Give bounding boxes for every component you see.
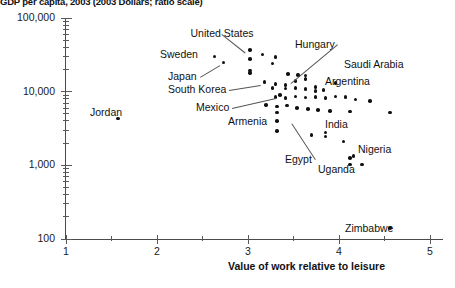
y-minor-tick — [63, 25, 69, 26]
label-leader-line — [229, 85, 261, 91]
y-axis-line — [65, 18, 66, 239]
data-point — [264, 103, 268, 107]
y-tick-label: 100,000 — [0, 11, 55, 23]
y-major-tick — [61, 18, 72, 19]
data-point — [275, 111, 279, 115]
point-label-armenia: Armenia — [228, 115, 267, 127]
point-label-mexico: Mexico — [196, 101, 229, 113]
y-minor-tick — [63, 194, 69, 195]
point-label-argentina: Argentina — [325, 75, 370, 87]
point-label-uganda: Uganda — [318, 163, 355, 175]
data-point — [275, 119, 279, 123]
point-label-saudi-arabia: Saudi Arabia — [344, 58, 404, 70]
x-major-tick — [339, 235, 340, 244]
data-point — [304, 77, 308, 81]
data-point — [348, 156, 352, 160]
data-point — [261, 53, 265, 57]
data-point — [324, 96, 328, 100]
data-point — [368, 99, 372, 103]
data-point — [304, 87, 308, 91]
data-point — [352, 154, 356, 158]
data-point — [348, 110, 352, 114]
y-minor-tick — [63, 40, 69, 41]
data-point — [310, 133, 314, 137]
y-minor-tick — [63, 143, 69, 144]
data-point — [271, 62, 275, 66]
chart-screenshot: GDP per capita, 2003 (2003 Dollars; rati… — [0, 0, 455, 288]
data-point — [275, 129, 279, 133]
y-minor-tick — [63, 98, 69, 99]
scatter-plot-area: 1001,00010,000100,00012345Value of work … — [0, 0, 455, 288]
data-point — [213, 55, 217, 59]
y-minor-tick — [63, 181, 69, 182]
data-point — [316, 108, 320, 112]
data-point — [354, 98, 358, 102]
point-label-jordan: Jordan — [90, 106, 122, 118]
data-point — [324, 131, 328, 135]
label-leader-line — [232, 98, 276, 109]
data-point — [295, 106, 299, 110]
point-label-sweden: Sweden — [160, 48, 198, 60]
data-point — [334, 95, 338, 99]
x-major-tick — [157, 235, 158, 244]
point-label-hungary: Hungary — [295, 38, 335, 50]
y-tick-label: 10,000 — [0, 85, 55, 97]
x-axis-line — [65, 239, 443, 240]
data-point — [274, 82, 278, 86]
point-label-united-states: United States — [190, 27, 253, 39]
data-point — [304, 96, 308, 100]
y-tick-label: 100 — [0, 232, 55, 244]
data-point — [344, 95, 348, 99]
data-point — [285, 104, 289, 108]
x-tick-label: 5 — [410, 245, 450, 257]
y-minor-tick — [63, 130, 69, 131]
y-major-tick — [61, 91, 72, 92]
y-minor-tick — [63, 172, 69, 173]
x-minor-tick — [202, 236, 203, 241]
y-major-tick — [61, 165, 72, 166]
data-point — [342, 140, 346, 144]
x-tick-label: 4 — [319, 245, 359, 257]
y-tick-label: 1,000 — [0, 158, 55, 170]
point-label-south-korea: South Korea — [168, 83, 226, 95]
x-tick-label: 3 — [228, 245, 268, 257]
data-point — [294, 86, 298, 90]
x-major-tick — [248, 235, 249, 244]
y-minor-tick — [63, 168, 69, 169]
data-point — [248, 48, 252, 52]
point-label-india: India — [325, 118, 348, 130]
data-point — [248, 71, 252, 75]
y-minor-tick — [63, 203, 69, 204]
data-point — [286, 72, 290, 76]
label-leader-line — [200, 65, 220, 77]
y-minor-tick — [63, 176, 69, 177]
data-point — [284, 87, 288, 91]
data-point — [328, 109, 332, 113]
data-point — [274, 55, 278, 59]
y-minor-tick — [63, 29, 69, 30]
data-point — [360, 163, 364, 167]
x-minor-tick — [111, 236, 112, 241]
y-minor-tick — [63, 95, 69, 96]
data-point — [275, 105, 279, 109]
y-minor-tick — [63, 103, 69, 104]
x-minor-tick — [384, 236, 385, 241]
y-minor-tick — [63, 187, 69, 188]
y-minor-tick — [63, 120, 69, 121]
data-point — [324, 135, 328, 139]
y-minor-tick — [63, 113, 69, 114]
data-point — [222, 61, 226, 65]
point-label-egypt: Egypt — [285, 153, 312, 165]
data-point — [271, 86, 275, 90]
data-point — [294, 95, 298, 99]
point-label-nigeria: Nigeria — [358, 143, 391, 155]
y-minor-tick — [63, 56, 69, 57]
data-point — [263, 80, 267, 84]
data-point — [322, 88, 326, 92]
y-minor-tick — [63, 108, 69, 109]
data-point — [314, 95, 318, 99]
x-minor-tick — [293, 236, 294, 241]
data-point — [314, 89, 318, 93]
y-minor-tick — [63, 216, 69, 217]
data-point — [248, 57, 252, 61]
